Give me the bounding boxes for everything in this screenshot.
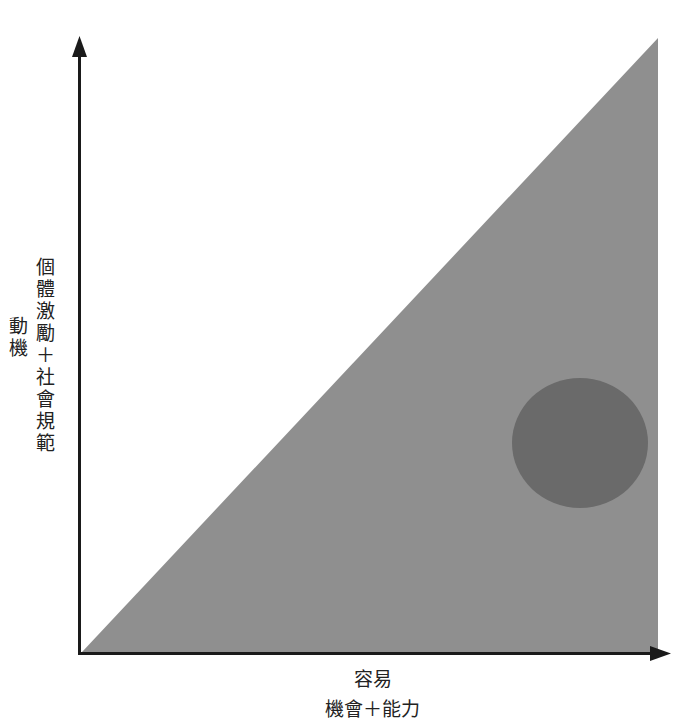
x-axis-arrow-icon (650, 646, 671, 661)
y-axis-label: 動機 (7, 315, 29, 359)
y-axis-sublabel: 個體激勵＋社會規範 (34, 256, 56, 454)
x-axis-sublabel: 機會＋能力 (325, 694, 420, 721)
x-axis-label: 容易 (354, 664, 392, 691)
y-axis (72, 36, 87, 655)
highlight-circle (512, 378, 648, 508)
y-axis-arrow-icon (72, 36, 87, 57)
shaded-triangle-region (82, 38, 658, 652)
